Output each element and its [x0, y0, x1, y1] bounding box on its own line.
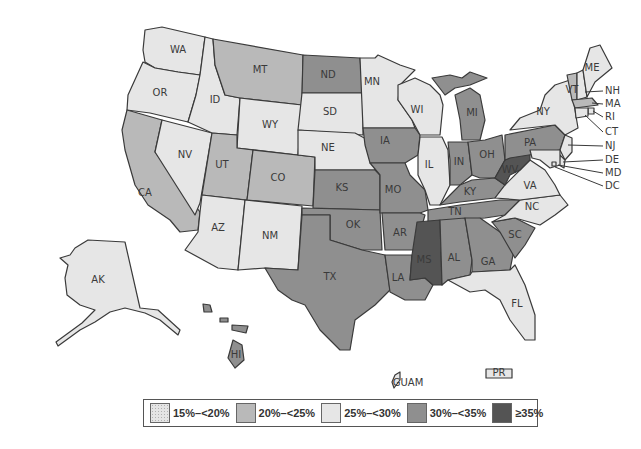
callout-label-MA: MA — [605, 98, 621, 109]
state-label-IN: IN — [454, 156, 464, 167]
leader-line-DE — [563, 160, 603, 162]
state-label-UT: UT — [215, 159, 229, 170]
state-label-LA: LA — [392, 272, 405, 283]
leader-line-CT — [585, 115, 603, 132]
legend-item: 20%–<25% — [236, 403, 316, 423]
legend: 15%–<20%20%–<25%25%–<30%30%–<35%≥35% — [143, 399, 538, 427]
state-HI-island-1[interactable] — [203, 304, 212, 312]
legend-item: ≥35% — [492, 403, 543, 423]
state-HI-island-2[interactable] — [220, 318, 228, 322]
state-label-IL: IL — [425, 159, 434, 170]
state-label-KY: KY — [464, 186, 477, 197]
state-label-KS: KS — [336, 182, 349, 193]
legend-label: 20%–<25% — [259, 407, 316, 419]
state-label-NM: NM — [262, 230, 278, 241]
leader-line-NJ — [568, 145, 603, 146]
state-label-AK: AK — [91, 274, 105, 285]
state-label-MT: MT — [253, 64, 269, 75]
state-label-IA: IA — [380, 135, 390, 146]
state-label-AL: AL — [448, 252, 461, 263]
state-label-VT: VT — [566, 84, 580, 95]
legend-item: 15%–<20% — [150, 403, 230, 423]
state-AK[interactable] — [56, 240, 180, 346]
state-label-OH: OH — [479, 149, 494, 160]
state-IA[interactable] — [363, 128, 420, 163]
callout-label-MD: MD — [605, 167, 622, 178]
state-label-GA: GA — [481, 256, 496, 267]
legend-label: ≥35% — [515, 407, 543, 419]
state-label-OK: OK — [346, 219, 361, 230]
state-label-MN: MN — [364, 76, 380, 87]
leader-line-MD — [558, 165, 603, 173]
state-label-SD: SD — [323, 106, 337, 117]
legend-swatch — [150, 403, 170, 423]
state-label-MO: MO — [385, 184, 402, 195]
state-label-WY: WY — [262, 119, 279, 130]
state-label-TN: TN — [447, 206, 462, 217]
legend-label: 15%–<20% — [173, 407, 230, 419]
legend-item: 25%–<30% — [321, 403, 401, 423]
state-label-NY: NY — [536, 106, 550, 117]
callout-label-CT: CT — [605, 126, 619, 137]
legend-label: 30%–<35% — [430, 407, 487, 419]
state-label-VA: VA — [523, 180, 536, 191]
legend-swatch — [236, 403, 256, 423]
callout-label-NJ: NJ — [605, 140, 615, 151]
legend-swatch — [407, 403, 427, 423]
state-label-FL: FL — [511, 298, 523, 309]
leader-line-DC — [555, 167, 603, 186]
state-label-HI: HI — [231, 349, 241, 360]
state-label-WV: WV — [502, 164, 519, 175]
legend-label: 25%–<30% — [344, 407, 401, 419]
callout-label-DC: DC — [605, 180, 620, 191]
state-label-NE: NE — [321, 142, 335, 153]
state-label-OR: OR — [153, 87, 168, 98]
state-DC[interactable] — [552, 162, 556, 166]
state-label-MS: MS — [417, 254, 432, 265]
state-label-AZ: AZ — [211, 222, 225, 233]
state-label-NV: NV — [178, 149, 192, 160]
state-label-ND: ND — [320, 69, 335, 80]
state-HI-island-3[interactable] — [232, 325, 248, 333]
us-choropleth-map: WAORIDNVCAMTWYUTCOAZNMNDSDNEKSOKTXMNIAMO… — [0, 0, 641, 449]
state-label-AR: AR — [393, 227, 407, 238]
callout-label-NH: NH — [605, 85, 620, 96]
state-label-TX: TX — [323, 271, 337, 282]
state-label-PA: PA — [524, 137, 536, 148]
state-label-CO: CO — [271, 172, 286, 183]
callout-label-RI: RI — [605, 111, 615, 122]
legend-item: 30%–<35% — [407, 403, 487, 423]
state-label-PR: PR — [493, 367, 506, 378]
state-label-WA: WA — [170, 44, 186, 55]
state-label-MI: MI — [466, 107, 478, 118]
state-label-CA: CA — [138, 187, 152, 198]
state-label-ME: ME — [585, 62, 600, 73]
state-label-WI: WI — [411, 104, 424, 115]
state-label-NC: NC — [525, 201, 539, 212]
legend-swatch — [492, 403, 512, 423]
state-label-ID: ID — [210, 94, 221, 105]
state-label-SC: SC — [508, 229, 521, 240]
legend-swatch — [321, 403, 341, 423]
callout-label-DE: DE — [605, 154, 619, 165]
state-label-GUAM: GUAM — [393, 377, 424, 388]
